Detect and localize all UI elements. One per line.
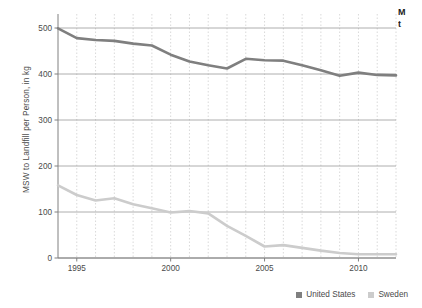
legend-swatch-icon: [368, 292, 374, 298]
legend-entry[interactable]: Sweden: [368, 290, 408, 299]
legend-entry[interactable]: United States: [296, 290, 355, 299]
legend-label: Sweden: [378, 290, 408, 299]
legend-swatch-icon: [296, 292, 302, 298]
chart-legend: United StatesSweden: [296, 290, 408, 299]
side-title-line-2: t: [398, 18, 422, 30]
legend-label: United States: [306, 290, 355, 299]
side-title-line-1: M: [398, 6, 422, 18]
chart-figure: MSW to Landfill per Person, in kg 010020…: [0, 0, 422, 308]
series-line-sweden: [58, 185, 396, 254]
plot-area: [0, 0, 422, 308]
side-title: M t: [398, 6, 422, 30]
